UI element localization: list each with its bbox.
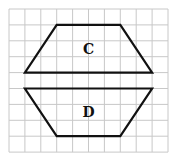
label-c: C <box>83 41 94 57</box>
grid-diagram: C D <box>0 0 178 160</box>
label-d: D <box>82 104 94 120</box>
grid-lines <box>9 9 168 152</box>
